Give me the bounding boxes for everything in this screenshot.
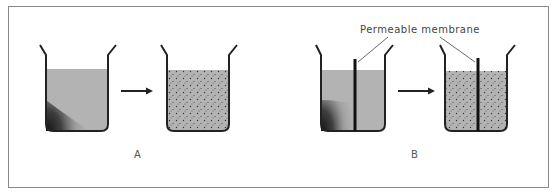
panel-label-b: B — [411, 149, 418, 160]
beaker-a-before — [40, 45, 116, 131]
arrow-a — [121, 88, 153, 95]
beaker-b-before — [316, 45, 393, 131]
panel-b — [316, 37, 515, 131]
panel-a — [40, 45, 237, 131]
beaker-b-after — [440, 45, 515, 131]
panel-label-a: A — [134, 149, 141, 160]
beaker-a-after — [161, 45, 237, 131]
diffusion-diagram: Permeable membrane A B — [0, 0, 557, 196]
arrow-b — [398, 88, 435, 95]
membrane-label: Permeable membrane — [360, 24, 480, 35]
leader-line-left — [358, 37, 388, 62]
